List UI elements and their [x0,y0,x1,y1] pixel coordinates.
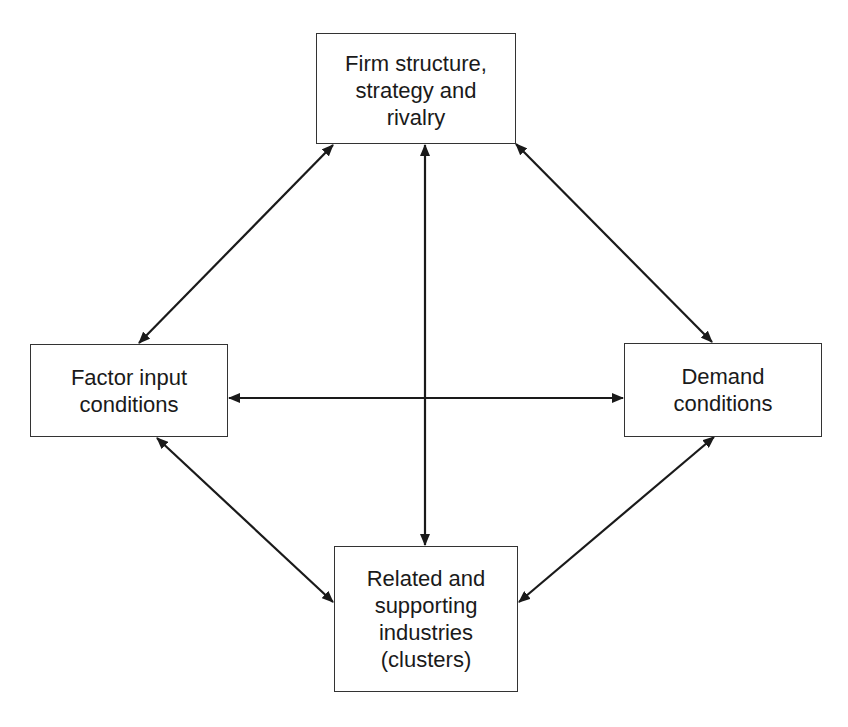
node-label: Demand conditions [673,363,772,417]
node-demand-conditions: Demand conditions [624,343,822,437]
node-related-supporting-industries: Related and supporting industries (clust… [334,546,518,692]
arrow-firm-demand [516,144,712,342]
arrow-factor-related [157,438,333,602]
node-label: Related and supporting industries (clust… [367,565,486,673]
arrow-demand-related [519,437,714,602]
node-firm-structure: Firm structure, strategy and rivalry [316,33,516,144]
node-label: Firm structure, strategy and rivalry [345,50,487,131]
diamond-diagram: Firm structure, strategy and rivalry Fac… [0,0,848,727]
node-factor-input-conditions: Factor input conditions [30,344,228,437]
node-label: Factor input conditions [71,364,187,418]
arrow-firm-factor [139,145,333,343]
